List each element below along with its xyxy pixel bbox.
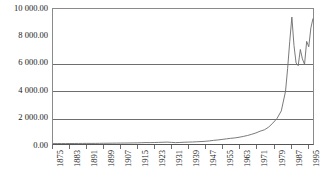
x-axis-tick-label: 1971 xyxy=(260,150,269,167)
x-axis-tick-label: 1907 xyxy=(124,150,133,167)
x-axis-tick-label: 1875 xyxy=(56,150,65,167)
x-axis-tick xyxy=(205,145,206,149)
x-axis-tick-label: 1995 xyxy=(312,150,321,167)
y-axis-tick-label: 0.00 xyxy=(0,141,48,150)
x-axis-tick-label: 1947 xyxy=(209,150,218,167)
gridline xyxy=(53,119,313,120)
x-axis-tick-label: 1963 xyxy=(243,150,252,167)
gridline xyxy=(53,91,313,92)
x-axis-tick xyxy=(154,145,155,149)
x-axis-tick-label: 1915 xyxy=(141,150,150,167)
x-axis-tick xyxy=(69,145,70,149)
x-axis-tick xyxy=(137,145,138,149)
y-axis-tick-label: 2 000.00 xyxy=(0,113,48,122)
x-axis-tick xyxy=(120,145,121,149)
x-axis-tick-label: 1899 xyxy=(107,150,116,167)
x-axis-tick-label: 1955 xyxy=(226,150,235,167)
x-axis-tick-label: 1931 xyxy=(175,150,184,167)
y-axis-labels: 0.002 000.004 000.006 000.008 000.0010 0… xyxy=(0,0,48,195)
x-axis-tick-label: 1883 xyxy=(73,150,82,167)
gridline xyxy=(53,64,313,65)
x-axis-tick xyxy=(274,145,275,149)
y-axis-tick-label: 6 000.00 xyxy=(0,58,48,67)
x-axis-tick-label: 1987 xyxy=(295,150,304,167)
x-axis-tick-label: 1891 xyxy=(90,150,99,167)
line-chart: 0.002 000.004 000.006 000.008 000.0010 0… xyxy=(0,0,326,195)
x-axis-tick-label: 1923 xyxy=(158,150,167,167)
x-axis-tick xyxy=(239,145,240,149)
y-axis-tick-label: 10 000.00 xyxy=(0,4,48,13)
x-axis-tick xyxy=(171,145,172,149)
x-axis-tick xyxy=(86,145,87,149)
x-axis-tick xyxy=(222,145,223,149)
x-axis-tick xyxy=(188,145,189,149)
x-axis-tick-label: 1939 xyxy=(192,150,201,167)
x-axis-tick-label: 1979 xyxy=(278,150,287,167)
x-axis-tick xyxy=(256,145,257,149)
x-axis-tick xyxy=(52,145,53,149)
x-axis-tick xyxy=(291,145,292,149)
plot-area xyxy=(52,8,314,145)
x-axis-labels: 1875188318911899190719151923193119391947… xyxy=(52,150,314,195)
y-axis-tick-label: 4 000.00 xyxy=(0,86,48,95)
series-line xyxy=(53,9,313,144)
x-axis-tick xyxy=(103,145,104,149)
y-axis-tick-label: 8 000.00 xyxy=(0,31,48,40)
x-axis-tick xyxy=(308,145,309,149)
